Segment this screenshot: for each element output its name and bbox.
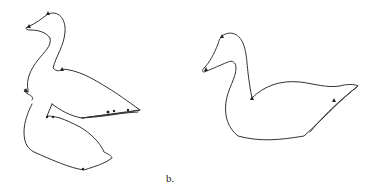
panel-b-outline	[203, 33, 359, 140]
caption-b: b.	[166, 172, 174, 184]
marker	[332, 98, 336, 102]
panel-a-duck-composite	[24, 11, 140, 170]
marker	[113, 110, 115, 112]
panel-b-duck	[203, 33, 359, 140]
marker	[127, 109, 129, 111]
panel-a-upper-outline	[24, 13, 140, 118]
figure-canvas	[0, 0, 369, 191]
marker	[107, 111, 110, 114]
marker	[46, 116, 48, 118]
panel-a-tail-outline	[82, 110, 140, 118]
marker	[52, 116, 54, 118]
marker	[82, 168, 84, 170]
